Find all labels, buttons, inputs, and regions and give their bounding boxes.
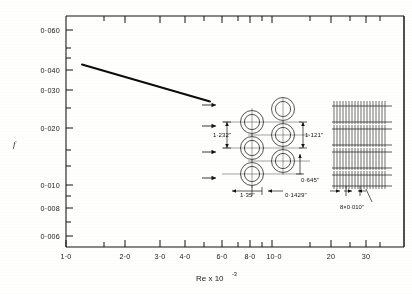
tube-column-right (272, 97, 295, 175)
x-axis-title-exponent: -3 (232, 271, 237, 277)
dimension-tube-diameter (296, 154, 304, 174)
dimension-label-transverse-pitch: 1·232" (213, 131, 231, 138)
fin-hatching-band (334, 125, 385, 147)
finned-tube (272, 97, 295, 123)
flow-arrow-icon (202, 103, 216, 107)
y-axis-ticks (66, 30, 73, 236)
x-axis-title: Re x 10 -3 (196, 271, 237, 283)
y-tick-label: 0·008 (41, 204, 60, 213)
data-series-friction-factor (82, 65, 210, 102)
dimension-label-longitudinal-pitch: 1·121" (305, 131, 323, 138)
flow-arrow-icon-group (202, 103, 216, 180)
y-tick-label: 0·006 (41, 232, 60, 241)
dimension-label-fin-gap: 0·1429" (285, 191, 307, 198)
x-tick-label: 6·0 (217, 252, 228, 261)
x-tick-label: 8·0 (245, 252, 256, 261)
chart-svg: 0·060 0·040 0·030 0·020 0·010 0·008 0·00… (0, 0, 412, 294)
flow-arrow-icon (202, 150, 216, 154)
y-tick-label: 0·010 (41, 181, 60, 190)
dimension-label-tube-diameter: 0·645" (301, 176, 319, 183)
y-axis-title: f (13, 139, 17, 149)
x-tick-label: 2·0 (120, 252, 131, 261)
y-tick-label: 0·060 (41, 26, 60, 35)
figure-canvas: 0·060 0·040 0·030 0·020 0·010 0·008 0·00… (0, 0, 412, 294)
y-tick-label: 0·020 (41, 124, 60, 133)
flow-arrow-icon (202, 124, 216, 128)
x-axis-ticks-top (104, 16, 380, 23)
flow-arrow-icon (202, 176, 216, 180)
x-tick-label: 30 (362, 252, 370, 261)
fin-hatching-band (334, 148, 385, 170)
x-axis-ticks-bottom (66, 240, 380, 247)
x-tick-label: 4·0 (180, 252, 191, 261)
y-tick-label: 0·030 (41, 86, 60, 95)
x-axis-tick-labels: 1·0 2·0 3·0 4·0 6·0 8·0 10·0 20 30 (61, 252, 371, 261)
x-tick-label: 10·0 (266, 252, 281, 261)
y-axis-tick-labels: 0·060 0·040 0·030 0·020 0·010 0·008 0·00… (41, 26, 60, 241)
x-tick-label: 3·0 (155, 252, 166, 261)
tube-centre-lines (222, 122, 310, 174)
x-tick-label: 20 (327, 252, 335, 261)
plot-frame (66, 16, 404, 247)
fin-hatching-band (334, 101, 385, 124)
y-tick-label: 0·040 (41, 66, 60, 75)
x-axis-title-text: Re x 10 (196, 274, 224, 283)
x-tick-label: 1·0 (61, 252, 72, 261)
fin-detail-drawing: 8×0·010" (332, 101, 392, 210)
inset-tube-bundle-drawing: 1·232" 1·121" 0·645" (202, 97, 392, 210)
dimension-label-fin-thickness: 8×0·010" (340, 204, 364, 210)
dimension-label-tube-spacing: 1·35" (240, 191, 255, 198)
